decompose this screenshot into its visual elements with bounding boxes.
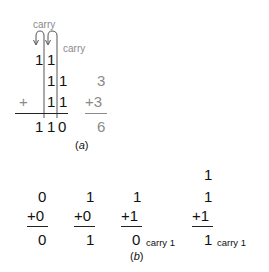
case-1-rule — [27, 226, 48, 227]
caption-a: (a) — [75, 140, 88, 151]
case-3-carry-out: carry 1 — [146, 238, 175, 248]
carry-label-upper: carry — [33, 20, 55, 30]
case-4-rule — [192, 226, 213, 227]
caption-b: (b) — [130, 251, 143, 262]
case-2-sum: 1 — [86, 232, 94, 247]
addend-digit: 1 — [59, 94, 67, 109]
case-4-carry-in: 1 — [204, 167, 212, 182]
decimal-sum-rule — [85, 113, 107, 114]
case-2-rule — [74, 226, 95, 227]
case-2-addend-1: 1 — [86, 189, 94, 204]
case-2-addend-2: +0 — [74, 208, 91, 223]
decimal-sum: 6 — [97, 119, 105, 134]
case-1-addend-2: +0 — [27, 208, 44, 223]
addend-digit: 1 — [47, 73, 55, 88]
case-3-addend-1: 1 — [133, 189, 141, 204]
case-4-carry-out: carry 1 — [217, 238, 246, 248]
case-3-sum: 0 — [132, 232, 140, 247]
carry-digit: 1 — [47, 52, 55, 67]
case-4-addend-2: +1 — [192, 208, 209, 223]
sum-rule — [15, 113, 68, 114]
case-4-addend-1: 1 — [204, 189, 212, 204]
carry-digit: 1 — [35, 52, 43, 67]
case-4-sum: 1 — [204, 232, 212, 247]
case-1-addend-1: 0 — [38, 189, 46, 204]
case-3-rule — [121, 226, 142, 227]
sum-digit: 1 — [47, 119, 55, 134]
addend-digit: 1 — [47, 94, 55, 109]
case-1-sum: 0 — [38, 232, 46, 247]
plus-sign: + — [19, 94, 28, 109]
decimal-addend-1: 3 — [97, 73, 105, 88]
sum-digit: 0 — [58, 119, 66, 134]
case-3-addend-2: +1 — [121, 208, 138, 223]
addend-digit: 1 — [59, 73, 67, 88]
decimal-addend-2: +3 — [85, 94, 102, 109]
carry-label-side: carry — [63, 44, 85, 54]
sum-digit: 1 — [35, 119, 43, 134]
